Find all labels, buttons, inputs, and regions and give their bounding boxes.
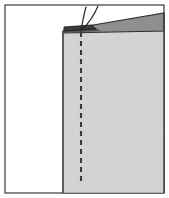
fabric-panel-texture [63, 31, 164, 193]
sewing-diagram-figure: Sewing diagram: folded fabric edge with … [0, 0, 169, 198]
diagram-canvas: Sewing diagram: folded fabric edge with … [0, 0, 169, 198]
fabric-group [63, 13, 164, 193]
